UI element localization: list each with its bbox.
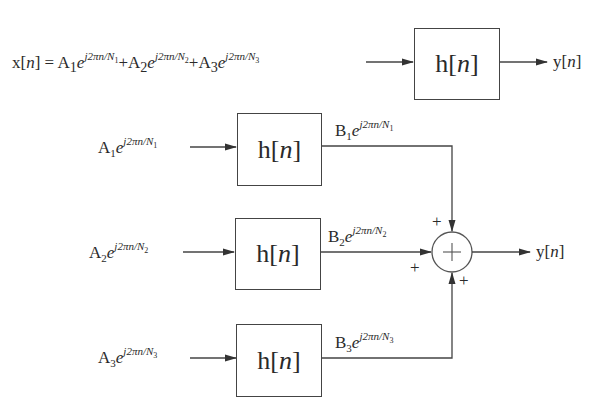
term-1: A1ej2πn/N1 [57, 53, 118, 72]
branch1-output-label: B1ej2πn/N1 [335, 122, 393, 139]
branch1-input-label: A1ej2πn/N1 [98, 139, 157, 156]
branch2-output-label: B2ej2πn/N2 [328, 228, 386, 245]
branch3-sign: + [459, 272, 469, 289]
term-2: A2ej2πn/N2 [128, 53, 189, 72]
system-label: h[n] [258, 135, 301, 165]
branch2-system-block: h[n] [235, 218, 321, 290]
plus-1: + [118, 53, 128, 72]
branch3-output-label: B3ej2πn/N3 [335, 334, 393, 351]
branch2-input-label: A2ej2πn/N2 [89, 244, 148, 261]
system-label: h[n] [257, 346, 300, 376]
system-label: h[n] [435, 49, 478, 79]
branch2-sign: + [410, 259, 420, 276]
term-3: A3ej2πn/N3 [198, 53, 259, 72]
top-output-label: y[n] [553, 53, 581, 70]
branch3-input-label: A3ej2πn/N3 [98, 349, 157, 366]
summer-output-label: y[n] [536, 243, 564, 260]
block-diagram: x[n] = A1ej2πn/N1+A2ej2πn/N2+A3ej2πn/N3 … [0, 0, 598, 413]
plus-2: + [189, 53, 199, 72]
top-input-expression: x[n] = A1ej2πn/N1+A2ej2πn/N2+A3ej2πn/N3 [12, 54, 259, 75]
branch1-sign: + [432, 213, 442, 230]
branch3-system-block: h[n] [236, 324, 322, 397]
system-label: h[n] [256, 239, 299, 269]
input-lhs: x[n] = [12, 53, 54, 72]
branch1-system-block: h[n] [237, 113, 322, 186]
top-system-block: h[n] [414, 28, 500, 100]
